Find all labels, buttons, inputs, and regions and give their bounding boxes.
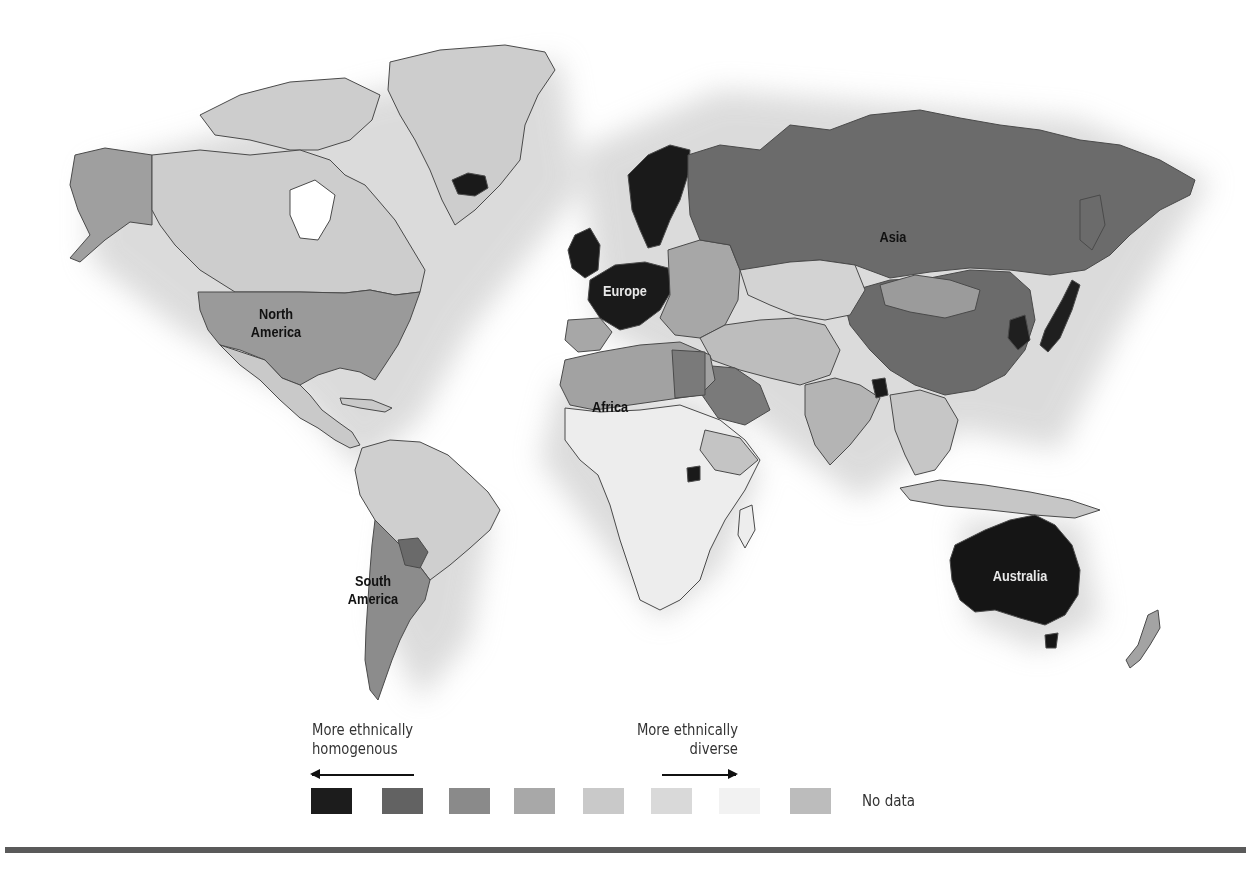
legend-swatch-2: [382, 788, 423, 814]
label-south-america-line2: America: [339, 590, 407, 608]
bottom-rule: [5, 847, 1246, 853]
legend-homogenous-line1: More ethnically: [312, 721, 413, 740]
new-zealand: [1126, 610, 1160, 668]
legend-diverse-line1: More ethnically: [622, 721, 738, 740]
legend-swatch-no-data: [790, 788, 831, 814]
legend: More ethnically homogenous More ethnical…: [0, 715, 1246, 825]
iberia: [565, 318, 612, 352]
indonesia: [900, 480, 1100, 518]
world-map: North America South America Europe Afric…: [0, 0, 1246, 720]
legend-swatch-1: [311, 788, 352, 814]
label-asia: Asia: [872, 228, 915, 246]
label-south-america: South America: [339, 572, 407, 608]
arrow-left-icon: [312, 774, 414, 776]
legend-swatch-7: [719, 788, 760, 814]
tasmania: [1045, 633, 1058, 648]
legend-diverse-line2: diverse: [622, 740, 738, 759]
label-south-america-line1: South: [339, 572, 407, 590]
label-north-america-line2: America: [242, 323, 310, 341]
legend-swatch-6: [651, 788, 692, 814]
legend-homogenous-line2: homogenous: [312, 740, 413, 759]
legend-diverse-label: More ethnically diverse: [622, 721, 738, 759]
egypt: [672, 350, 705, 398]
label-north-america: North America: [242, 305, 310, 341]
arrow-right-icon: [662, 774, 736, 776]
legend-swatch-5: [583, 788, 624, 814]
label-north-america-line1: North: [242, 305, 310, 323]
legend-swatch-4: [514, 788, 555, 814]
label-australia: Australia: [978, 567, 1063, 585]
legend-swatch-3: [449, 788, 490, 814]
legend-no-data-label: No data: [862, 792, 915, 810]
legend-homogenous-label: More ethnically homogenous: [312, 721, 413, 759]
label-europe: Europe: [595, 282, 655, 300]
madagascar: [738, 505, 755, 548]
world-map-svg: [0, 0, 1246, 720]
uganda: [687, 466, 700, 482]
label-africa: Africa: [585, 398, 636, 416]
